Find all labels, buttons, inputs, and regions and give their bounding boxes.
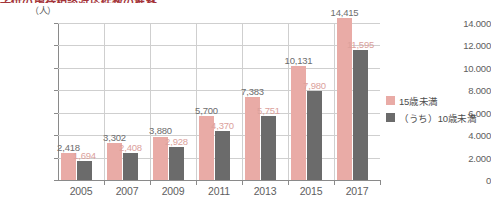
- y-axis-tick-label: 10.000: [441, 62, 491, 73]
- bar-group: [150, 23, 196, 180]
- bar-group: [196, 23, 242, 180]
- bar-group: [104, 23, 150, 180]
- bar[interactable]: [123, 153, 138, 180]
- legend-label: 15歳未満: [399, 94, 438, 108]
- data-label: 5,751: [257, 105, 280, 116]
- x-axis-tick-mark: [334, 181, 335, 185]
- data-label: 4,370: [211, 120, 234, 131]
- legend-item[interactable]: 15歳未満: [386, 92, 477, 109]
- data-label: 3,880: [149, 125, 172, 136]
- x-axis-tick-mark: [242, 181, 243, 185]
- legend-label: （うち）10歳未満: [399, 111, 477, 125]
- data-label: 7,383: [241, 86, 264, 97]
- bar[interactable]: [261, 116, 276, 180]
- legend-swatch-icon: [386, 96, 395, 105]
- bar[interactable]: [307, 91, 322, 180]
- data-label: 10,131: [285, 55, 313, 66]
- data-label: 11,595: [347, 39, 374, 50]
- data-label: 5,700: [195, 105, 218, 116]
- y-axis-tick-label: 14.000: [441, 18, 491, 29]
- legend-swatch-icon: [386, 113, 395, 122]
- data-label: 2,928: [165, 136, 188, 147]
- x-axis-tick-mark: [104, 181, 105, 185]
- bar[interactable]: [215, 131, 230, 180]
- x-axis-tick-label: 2017: [327, 185, 387, 197]
- data-label: 14,415: [331, 7, 359, 18]
- x-axis-tick-mark: [150, 181, 151, 185]
- bar-group: [242, 23, 288, 180]
- gridline: [58, 180, 380, 181]
- chart-title-text: 子供の虐待相談対応件数の推移: [0, 0, 157, 3]
- y-axis-tick-label: 2.000: [441, 152, 491, 163]
- x-axis-tick-mark: [380, 181, 381, 185]
- legend-item[interactable]: （うち）10歳未満: [386, 109, 477, 126]
- y-axis-tick-label: 12.000: [441, 40, 491, 51]
- plot-area: [58, 23, 380, 180]
- y-axis-tick-label: 0: [441, 175, 491, 186]
- bar[interactable]: [169, 147, 184, 180]
- chart-legend: 15歳未満（うち）10歳未満: [386, 92, 477, 126]
- x-axis-tick-mark: [196, 181, 197, 185]
- data-label: 2,408: [119, 142, 142, 153]
- data-label: 7,980: [303, 80, 326, 91]
- y-axis-tick-label: 4.000: [441, 130, 491, 141]
- x-axis-tick-mark: [288, 181, 289, 185]
- data-label: 1,694: [73, 150, 96, 161]
- y-axis-unit-label: （人）: [30, 4, 56, 17]
- bar[interactable]: [77, 161, 92, 180]
- chart-title: 子供の虐待相談対応件数の推移: [0, 0, 260, 3]
- bar-group: [288, 23, 334, 180]
- bar[interactable]: [353, 50, 368, 180]
